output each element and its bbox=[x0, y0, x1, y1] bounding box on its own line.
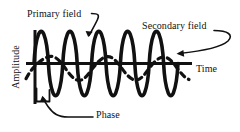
x-axis-label: Time bbox=[196, 64, 217, 74]
primary-field-label: Primary field bbox=[27, 9, 81, 19]
waveform-figure: Amplitude Time Primary field Secondary f… bbox=[0, 0, 240, 132]
secondary-field-label: Secondary field bbox=[142, 21, 207, 31]
y-axis-label: Amplitude bbox=[11, 37, 21, 97]
phase-label: Phase bbox=[96, 110, 120, 120]
phase-arrow bbox=[40, 96, 93, 117]
secondary-field-arrow bbox=[177, 31, 231, 57]
